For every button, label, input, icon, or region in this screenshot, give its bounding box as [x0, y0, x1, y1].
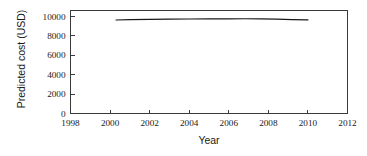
- x-tick-label: 2012: [338, 118, 357, 128]
- y-tick-label: 2000: [47, 89, 66, 99]
- y-tick-label: 0: [61, 109, 66, 119]
- x-tick-label: 1998: [61, 118, 80, 128]
- data-series-line: [116, 19, 308, 20]
- y-tick-label: 10000: [43, 12, 66, 22]
- x-axis-title: Year: [70, 134, 348, 147]
- x-tick-label: 2004: [180, 118, 199, 128]
- y-tick-label: 6000: [47, 50, 66, 60]
- axis-frame: [71, 11, 348, 114]
- y-tick-label: 8000: [47, 31, 66, 41]
- chart-figure: Predicted cost (USD) 1998200020022004200…: [0, 0, 367, 156]
- x-tick-label: 2010: [299, 118, 318, 128]
- x-tick-label: 2002: [140, 118, 159, 128]
- x-tick-label: 2006: [220, 118, 239, 128]
- plot-area: 1998200020022004200620082010201202000400…: [0, 0, 367, 156]
- x-tick-label: 2008: [259, 118, 278, 128]
- y-tick-label: 4000: [47, 70, 66, 80]
- x-tick-label: 2000: [101, 118, 120, 128]
